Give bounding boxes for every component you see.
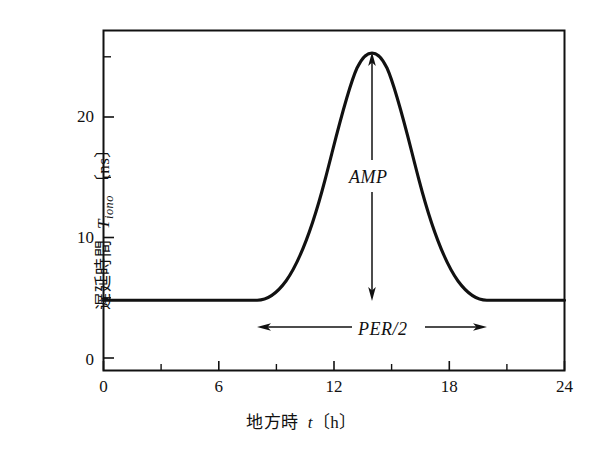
x-major-ticks [104, 361, 565, 371]
x-axis-title: 地方時t〔h〕 [246, 408, 357, 433]
x-axis-title-unit: 〔h〕 [313, 413, 357, 432]
per-half-annotation-label: PER/2 [355, 319, 411, 340]
x-tick-label-24: 24 [556, 377, 573, 397]
data-curve [104, 53, 565, 300]
x-tick-label-6: 6 [215, 377, 224, 397]
chart-figure: 0 6 12 18 24 0 10 20 地方時t〔h〕 遅延時間Tiono〔n… [0, 0, 603, 449]
y-axis-title-unit: 〔ns〕 [94, 140, 113, 191]
x-tick-label-12: 12 [326, 377, 343, 397]
x-tick-label-18: 18 [441, 377, 458, 397]
y-axis-title-prefix: 遅延時間 [94, 239, 113, 309]
amp-annotation-label: AMP [346, 167, 390, 188]
x-axis-title-prefix: 地方時 [246, 413, 299, 432]
x-tick-label-0: 0 [99, 377, 108, 397]
y-axis-title: 遅延時間Tiono〔ns〕 [89, 140, 117, 310]
y-tick-label-0: 0 [64, 350, 94, 370]
y-axis-title-variable: T [94, 218, 113, 228]
y-axis-title-subscript: iono [102, 195, 116, 219]
plot-frame [104, 31, 565, 371]
y-tick-label-20: 20 [64, 107, 94, 127]
